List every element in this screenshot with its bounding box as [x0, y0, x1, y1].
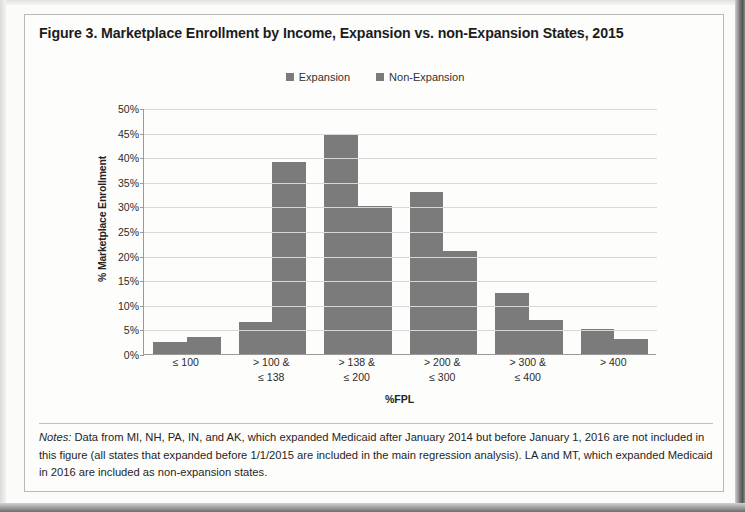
scanned-page: Figure 3. Marketplace Enrollment by Inco… — [0, 0, 745, 512]
gridline — [144, 109, 657, 110]
y-tick-label: 20% — [118, 251, 139, 263]
y-axis-ticks: 50%45%40%35%30%25%20%15%10%5%0% — [103, 109, 139, 355]
bar-expansion — [239, 322, 273, 354]
bar-group — [486, 108, 572, 354]
bar-group — [572, 108, 658, 354]
bar-expansion — [324, 135, 358, 354]
y-tick-label: 45% — [118, 128, 139, 140]
page-edge-left — [0, 0, 6, 512]
legend-swatch-icon — [286, 73, 294, 81]
gridline — [144, 207, 657, 208]
gridline — [144, 232, 657, 233]
bar-expansion — [495, 293, 529, 355]
y-tick-mark — [140, 330, 144, 331]
y-tick-mark — [140, 257, 144, 258]
x-tick-line: > 100 & — [229, 355, 315, 370]
gridline — [144, 158, 657, 159]
y-tick-label: 40% — [118, 152, 139, 164]
x-axis-ticks: ≤ 100> 100 &≤ 138> 138 &≤ 200> 200 &≤ 30… — [143, 355, 656, 385]
gridline — [144, 257, 657, 258]
gridline — [144, 183, 657, 184]
x-tick-line: ≤ 200 — [314, 370, 400, 385]
legend-item-2: Non-Expansion — [376, 71, 464, 83]
y-tick-mark — [140, 134, 144, 135]
gridline — [144, 330, 657, 331]
figure-container: Figure 3. Marketplace Enrollment by Inco… — [24, 14, 724, 492]
y-tick-label: 15% — [118, 275, 139, 287]
notes-body: Data from MI, NH, PA, IN, and AK, which … — [39, 431, 713, 478]
x-tick-label: > 138 &≤ 200 — [314, 355, 400, 385]
bar-groups — [144, 108, 657, 354]
y-tick-label: 25% — [118, 226, 139, 238]
bar-non-expansion — [443, 251, 477, 354]
x-tick-line: > 138 & — [314, 355, 400, 370]
y-tick-label: 50% — [118, 103, 139, 115]
bar-non-expansion — [187, 337, 221, 354]
figure-title: Figure 3. Marketplace Enrollment by Inco… — [39, 25, 715, 41]
page-edge-top — [0, 0, 745, 5]
y-tick-label: 10% — [118, 300, 139, 312]
page-edge-bottom — [0, 503, 745, 512]
bar-non-expansion — [614, 339, 648, 354]
x-tick-line: ≤ 300 — [400, 370, 486, 385]
y-tick-label: 30% — [118, 201, 139, 213]
legend-label: Non-Expansion — [389, 71, 464, 83]
page-edge-right — [735, 0, 745, 512]
plot-area — [143, 109, 656, 355]
chart-area: % Marketplace Enrollment 50%45%40%35%30%… — [25, 93, 725, 423]
bar-group — [315, 108, 401, 354]
x-tick-label: > 100 &≤ 138 — [229, 355, 315, 385]
bar-expansion — [153, 342, 187, 354]
y-tick-mark — [140, 281, 144, 282]
x-tick-label: > 200 &≤ 300 — [400, 355, 486, 385]
legend-label: Expansion — [299, 71, 350, 83]
y-tick-label: 0% — [124, 349, 139, 361]
y-tick-mark — [140, 109, 144, 110]
gridline — [144, 281, 657, 282]
y-tick-label: 5% — [124, 324, 139, 336]
gridline — [144, 134, 657, 135]
bar-group — [401, 108, 487, 354]
bar-expansion — [581, 329, 615, 354]
x-tick-line: ≤ 400 — [485, 370, 571, 385]
y-tick-mark — [140, 207, 144, 208]
x-tick-line: ≤ 100 — [143, 355, 229, 370]
x-tick-line: > 400 — [571, 355, 657, 370]
x-tick-line: > 200 & — [400, 355, 486, 370]
bar-non-expansion — [529, 320, 563, 354]
x-tick-line: ≤ 138 — [229, 370, 315, 385]
x-tick-label: ≤ 100 — [143, 355, 229, 385]
y-tick-mark — [140, 306, 144, 307]
figure-notes: Notes: Data from MI, NH, PA, IN, and AK,… — [39, 429, 717, 482]
notes-label: Notes: — [39, 431, 71, 443]
bar-group — [230, 108, 316, 354]
y-tick-mark — [140, 183, 144, 184]
legend-swatch-icon — [376, 73, 384, 81]
x-tick-label: > 400 — [571, 355, 657, 385]
legend-item-1: Expansion — [286, 71, 350, 83]
y-tick-mark — [140, 158, 144, 159]
bar-group — [144, 108, 230, 354]
gridline — [144, 306, 657, 307]
y-tick-label: 35% — [118, 177, 139, 189]
x-tick-line: > 300 & — [485, 355, 571, 370]
chart-legend: ExpansionNon-Expansion — [25, 71, 725, 83]
x-tick-label: > 300 &≤ 400 — [485, 355, 571, 385]
y-tick-mark — [140, 232, 144, 233]
notes-divider — [39, 423, 713, 424]
x-axis-title: %FPL — [143, 393, 656, 405]
bar-non-expansion — [272, 162, 306, 354]
